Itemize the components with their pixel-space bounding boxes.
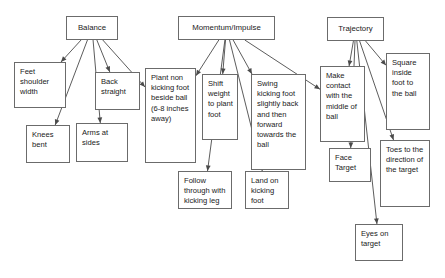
arrow-momentum-to-swing-kicking-foot	[233, 40, 252, 74]
node-shift-weight[interactable]: Shift weight to plant foot	[202, 74, 238, 140]
node-label: Toes to the direction of the target	[386, 145, 423, 174]
arrow-trajectory-to-square-inside-foot	[366, 41, 386, 65]
node-momentum[interactable]: Momentum/Impulse	[178, 16, 275, 40]
node-label: Eyes on target	[361, 229, 388, 248]
arrow-trajectory-to-make-contact-middle	[348, 41, 354, 66]
node-label: Land on kicking foot	[251, 176, 278, 205]
arrow-momentum-to-plant-non-kicking-foot	[196, 40, 219, 76]
node-label: Back straight	[101, 77, 126, 96]
node-square-inside-foot[interactable]: Square inside foot to the ball	[386, 53, 430, 130]
node-balance[interactable]: Balance	[66, 16, 118, 40]
node-feet-shoulder-width[interactable]: Feet shoulder width	[14, 62, 66, 108]
node-label: Balance	[78, 23, 106, 33]
node-label: Plant non kicking foot beside ball (6-8 …	[151, 73, 189, 123]
node-label: Follow through with kicking leg	[184, 176, 225, 205]
node-arms-at-sides[interactable]: Arms at sides	[76, 123, 128, 162]
node-eyes-on-target[interactable]: Eyes on target	[355, 224, 403, 261]
arrow-momentum-to-shift-weight	[221, 40, 226, 74]
arrow-balance-to-feet-shoulder-width	[61, 40, 81, 62]
node-knees-bent[interactable]: Knees bent	[26, 125, 70, 163]
node-plant-non-kicking-foot[interactable]: Plant non kicking foot beside ball (6-8 …	[145, 68, 196, 163]
node-label: Make contact with the middle of ball	[326, 71, 357, 121]
node-trajectory[interactable]: Trajectory	[327, 17, 384, 41]
node-label: Trajectory	[338, 24, 372, 34]
node-land-on-kicking-foot[interactable]: Land on kicking foot	[245, 171, 289, 209]
node-label: Momentum/Impulse	[192, 23, 260, 33]
node-make-contact-middle[interactable]: Make contact with the middle of ball	[320, 66, 365, 142]
node-label: Square inside foot to the ball	[392, 58, 417, 98]
node-label: Swing kicking foot slightly back and the…	[257, 79, 298, 149]
node-back-straight[interactable]: Back straight	[95, 72, 140, 110]
diagram-canvas: BalanceMomentum/ImpulseTrajectoryFeet sh…	[0, 0, 445, 278]
node-follow-through[interactable]: Follow through with kicking leg	[178, 171, 232, 209]
node-label: Face Target	[335, 153, 356, 172]
node-toes-to-direction[interactable]: Toes to the direction of the target	[380, 140, 430, 207]
node-label: Arms at sides	[82, 128, 108, 147]
node-label: Knees bent	[32, 130, 54, 149]
node-face-target[interactable]: Face Target	[329, 148, 371, 182]
node-label: Shift weight to plant foot	[208, 79, 233, 119]
arrow-balance-to-back-straight	[97, 40, 110, 72]
node-swing-kicking-foot[interactable]: Swing kicking foot slightly back and the…	[251, 74, 306, 170]
node-label: Feet shoulder width	[20, 67, 49, 96]
